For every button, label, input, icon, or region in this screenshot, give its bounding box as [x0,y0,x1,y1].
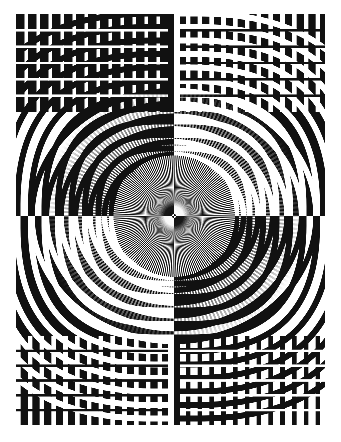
artwork-stage: Radial Moire Op-Art Print Black and whit… [0,0,341,442]
op-art-print [0,0,341,442]
